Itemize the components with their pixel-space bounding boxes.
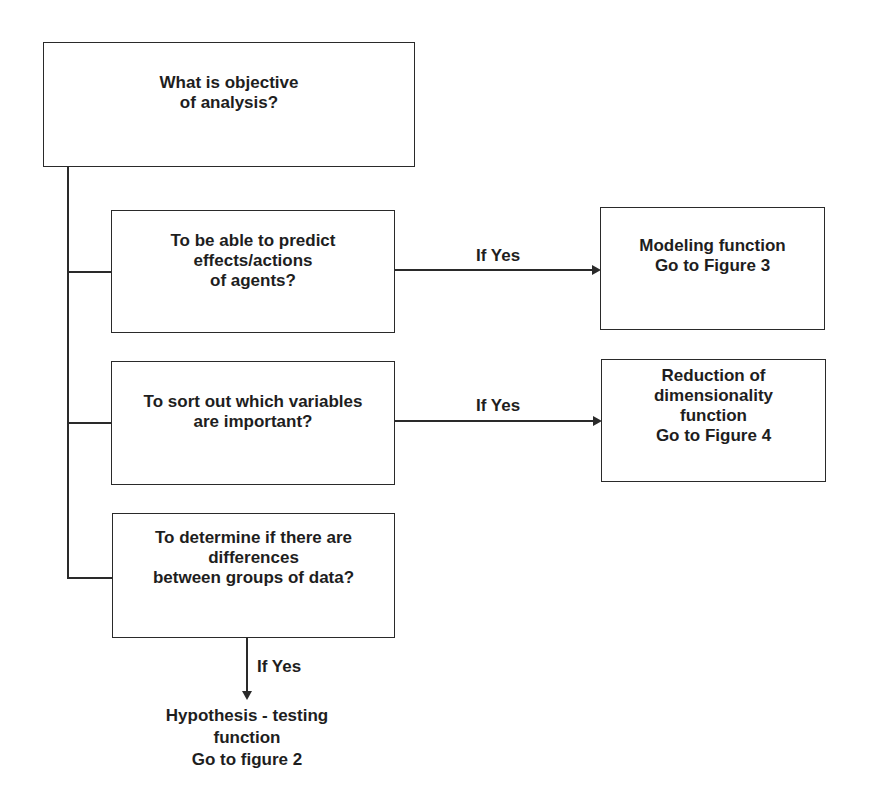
outcome-box-dimensionality: Reduction of dimensionality function Go …: [601, 359, 826, 482]
outcome-2-line-3: function: [680, 406, 747, 426]
root-question-box: What is objective of analysis?: [43, 42, 415, 167]
arrow-3-head-icon: [242, 691, 252, 700]
outcome-2-line-4: Go to Figure 4: [656, 426, 771, 446]
outcome-1-line-1: Modeling function: [639, 236, 785, 256]
question-box-predict: To be able to predict effects/actions of…: [111, 210, 395, 333]
branch-2-connector: [67, 422, 112, 424]
question-1-line-1: To be able to predict: [171, 231, 336, 251]
question-box-variables: To sort out which variables are importan…: [111, 361, 395, 485]
outcome-2-line-2: dimensionality: [654, 386, 773, 406]
outcome-1-line-2: Go to Figure 3: [655, 256, 770, 276]
outcome-box-modeling: Modeling function Go to Figure 3: [600, 207, 825, 330]
outcome-3-line-2: function: [137, 727, 357, 749]
arrow-1-shaft: [394, 269, 592, 271]
outcome-3-line-1: Hypothesis - testing: [137, 705, 357, 727]
question-3-line-2: differences: [208, 548, 299, 568]
root-question-line-2: of analysis?: [180, 93, 278, 113]
branch-3-connector: [67, 577, 113, 579]
trunk-connector: [67, 166, 69, 578]
branch-2-label: If Yes: [476, 396, 520, 416]
branch-1-connector: [67, 271, 112, 273]
question-1-line-3: of agents?: [210, 271, 296, 291]
question-2-line-2: are important?: [193, 412, 312, 432]
arrow-2-shaft: [394, 420, 593, 422]
question-box-differences: To determine if there are differences be…: [112, 513, 395, 638]
arrow-3-shaft: [246, 637, 248, 692]
branch-3-label: If Yes: [257, 657, 301, 677]
outcome-3-line-3: Go to figure 2: [137, 749, 357, 771]
branch-1-label: If Yes: [476, 246, 520, 266]
question-1-line-2: effects/actions: [193, 251, 312, 271]
outcome-hypothesis-testing: Hypothesis - testing function Go to figu…: [137, 705, 357, 771]
outcome-2-line-1: Reduction of: [662, 366, 766, 386]
question-3-line-3: between groups of data?: [153, 568, 354, 588]
root-question-line-1: What is objective: [160, 73, 299, 93]
question-2-line-1: To sort out which variables: [144, 392, 363, 412]
question-3-line-1: To determine if there are: [155, 528, 352, 548]
